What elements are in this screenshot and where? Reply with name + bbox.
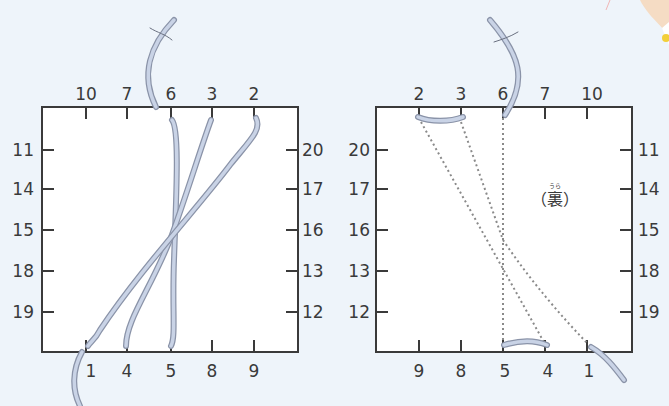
- back-right-label: 18: [638, 261, 660, 281]
- front-left-label: 15: [12, 220, 34, 240]
- back-left-label: 16: [348, 220, 370, 240]
- front-right-label: 12: [302, 302, 324, 322]
- caption-text: （裏）: [531, 190, 579, 209]
- caption-ruby: うら: [549, 182, 561, 190]
- back-bottom-label: 4: [543, 361, 554, 381]
- back-right-label: 11: [638, 140, 660, 160]
- front-left-label: 11: [12, 140, 34, 160]
- front-square: [42, 107, 298, 352]
- back-bottom-label: 5: [500, 361, 511, 381]
- back-right-label: 14: [638, 179, 660, 199]
- back-bottom-label: 8: [456, 361, 467, 381]
- back-left-label: 12: [348, 302, 370, 322]
- front-bottom-label: 5: [166, 361, 177, 381]
- back-right-label: 19: [638, 302, 660, 322]
- back-panel: 2 3 6 7 10 9 8 5 4 1 20 17 16 13 12 11 1…: [348, 20, 659, 381]
- back-top-label: 6: [498, 84, 509, 104]
- front-top-label: 6: [166, 84, 177, 104]
- front-top-label: 3: [207, 84, 218, 104]
- back-top-label: 7: [540, 84, 551, 104]
- front-right-label: 17: [302, 179, 324, 199]
- front-top-label: 10: [75, 84, 97, 104]
- back-left-label: 20: [348, 140, 370, 160]
- back-top-label: 3: [456, 84, 467, 104]
- front-left-label: 19: [12, 302, 34, 322]
- back-left-label: 17: [348, 179, 370, 199]
- back-left-label: 13: [348, 261, 370, 281]
- front-right-label: 16: [302, 220, 324, 240]
- front-right-label: 20: [302, 140, 324, 160]
- front-bottom-label: 8: [207, 361, 218, 381]
- front-left-label: 18: [12, 261, 34, 281]
- front-right-label: 13: [302, 261, 324, 281]
- front-left-label: 14: [12, 179, 34, 199]
- front-top-label: 7: [122, 84, 133, 104]
- front-panel: 10 7 6 3 2 1 4 5 8 9 11 14 15 18 19 20 1…: [12, 20, 323, 406]
- back-bottom-label: 1: [584, 361, 595, 381]
- front-bottom-label: 1: [86, 361, 97, 381]
- corner-decoration: [606, 0, 669, 45]
- stitch-diagram: 10 7 6 3 2 1 4 5 8 9 11 14 15 18 19 20 1…: [0, 0, 669, 406]
- front-top-label: 2: [249, 84, 260, 104]
- front-bottom-label: 4: [122, 361, 133, 381]
- front-bottom-label: 9: [249, 361, 260, 381]
- back-bottom-label: 9: [414, 361, 425, 381]
- back-right-label: 15: [638, 220, 660, 240]
- back-top-label: 2: [414, 84, 425, 104]
- back-top-label: 10: [581, 84, 603, 104]
